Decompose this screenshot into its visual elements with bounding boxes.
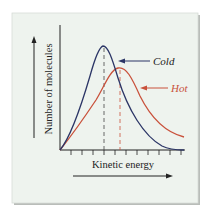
hot-label: Hot — [170, 82, 188, 94]
y-axis-label: Number of molecules — [43, 44, 54, 135]
panel — [12, 13, 198, 203]
kinetic-energy-distribution-figure: Number of molecules Cold Hot Kinetic ene… — [0, 0, 207, 215]
x-axis-label: Kinetic energy — [92, 159, 155, 170]
cold-label: Cold — [153, 55, 175, 67]
